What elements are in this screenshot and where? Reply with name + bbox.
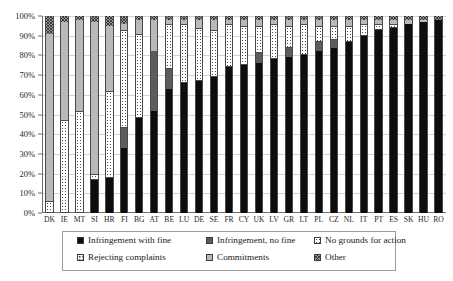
bar-segment (226, 67, 232, 213)
bar-segment (106, 91, 112, 178)
bar-segment (106, 178, 112, 213)
table-row (180, 16, 188, 213)
bar-segment (286, 57, 292, 213)
bar-dk (45, 16, 53, 213)
bar-segment (375, 30, 381, 213)
table-row (330, 16, 338, 213)
x-axis-tick-label: DK (42, 214, 57, 226)
legend-item-infringement-with-fine: Infringement with fine (77, 235, 171, 245)
legend-item-commitments: Commitments (206, 252, 269, 262)
legend-label: Other (325, 252, 346, 262)
table-row (389, 16, 397, 213)
legend-label: No grounds for action (325, 235, 406, 245)
bar-segment (271, 59, 277, 213)
bar-segment (301, 24, 307, 56)
y-axis-tick-label: 30% (0, 149, 35, 158)
legend-swatch-icon (314, 237, 321, 244)
legend-swatch-icon (314, 254, 321, 261)
bar-lu (180, 16, 188, 213)
table-row (225, 16, 233, 213)
x-axis-tick-label: BG (132, 214, 147, 226)
bar-segment (420, 22, 426, 213)
x-axis-tick-label: MT (72, 214, 87, 226)
x-axis-tick-label: HU (416, 214, 431, 226)
bar-segment (181, 83, 187, 213)
table-row (345, 16, 353, 213)
bar-segment (211, 77, 217, 213)
bar-segment (46, 34, 52, 201)
bar-segment (241, 26, 247, 65)
table-row (210, 16, 218, 213)
bar-segment (151, 111, 157, 213)
bar-segment (405, 24, 411, 213)
bar-segment (226, 24, 232, 67)
y-axis-tick-label: 20% (0, 169, 35, 178)
bar-mt (75, 16, 83, 213)
table-row (135, 16, 143, 213)
x-axis-tick-label: LV (266, 214, 281, 226)
bar-lt (300, 16, 308, 213)
y-axis-tick-label: 50% (0, 110, 35, 119)
bar-cy (240, 16, 248, 213)
table-row (434, 16, 442, 213)
x-axis-tick-label: SI (87, 214, 102, 226)
bar-segment (121, 16, 127, 24)
bar-segment (286, 48, 292, 58)
bar-at (150, 16, 158, 213)
y-axis-tick-label: 10% (0, 189, 35, 198)
legend-item-other: Other (314, 252, 346, 262)
bar-segment (256, 26, 262, 54)
legend-swatch-icon (206, 254, 213, 261)
bar-segment (136, 34, 142, 119)
table-row (374, 16, 382, 213)
x-axis-tick-label: AT (147, 214, 162, 226)
y-axis: 100%90%80%70%60%50%40%30%20%10%0% (0, 16, 38, 213)
x-axis-tick-label: DE (192, 214, 207, 226)
x-axis-tick-label: PL (311, 214, 326, 226)
bar-segment (316, 42, 322, 52)
bar-segment (211, 20, 217, 30)
bar-be (165, 16, 173, 213)
legend-label: Rejecting complaints (88, 252, 166, 262)
bar-segment (166, 89, 172, 213)
bar-segment (316, 51, 322, 213)
table-row (120, 16, 128, 213)
bar-bg (135, 16, 143, 213)
bar-segment (106, 26, 112, 91)
stacked-bar-chart: 100%90%80%70%60%50%40%30%20%10%0% DKIEMT… (0, 0, 453, 281)
bar-fr (225, 16, 233, 213)
table-row (404, 16, 412, 213)
y-axis-tick-label: 70% (0, 71, 35, 80)
bar-segment (361, 24, 367, 36)
x-axis-tick-label: LU (177, 214, 192, 226)
bar-segment (346, 42, 352, 213)
x-axis-tick-label: UK (251, 214, 266, 226)
x-axis-tick-label: SK (401, 214, 416, 226)
bar-segment (121, 148, 127, 213)
bar-pl (315, 16, 323, 213)
legend: Infringement with fine Infringement, no … (62, 231, 396, 271)
bar-segment (271, 24, 277, 59)
legend-item-no-grounds-for-action: No grounds for action (314, 235, 406, 245)
bar-segment (196, 81, 202, 213)
bar-segment (151, 51, 157, 110)
bar-segment (361, 36, 367, 213)
x-axis-tick-label: ES (386, 214, 401, 226)
bar-sk (404, 16, 412, 213)
bar-it (360, 16, 368, 213)
x-axis-tick-label: LT (296, 214, 311, 226)
x-axis-tick-label: BE (162, 214, 177, 226)
table-row (300, 16, 308, 213)
bar-segment (151, 20, 157, 52)
y-axis-line (42, 16, 43, 213)
table-row (90, 16, 98, 213)
x-axis-tick-label: CY (237, 214, 252, 226)
bar-segment (181, 24, 187, 83)
bar-se (210, 16, 218, 213)
bar-segment (331, 48, 337, 213)
x-axis-tick-label: PT (371, 214, 386, 226)
bar-segment (106, 16, 112, 26)
bar-cz (330, 16, 338, 213)
x-axis-tick-label: GR (281, 214, 296, 226)
x-axis-tick-label: IT (356, 214, 371, 226)
